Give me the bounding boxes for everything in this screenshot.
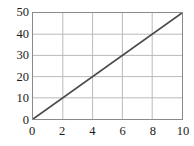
plot-area [32, 12, 183, 120]
y-axis-tick-label: 40 [1, 27, 29, 40]
x-axis-tick-label: 4 [79, 125, 105, 138]
data-line-series [33, 13, 182, 119]
x-axis-tick-label: 2 [49, 125, 75, 138]
y-axis-tick-labels: 0 10 20 30 40 50 [0, 12, 29, 120]
x-axis-tick-label: 10 [170, 125, 194, 138]
y-axis-tick-label: 10 [1, 92, 29, 105]
y-axis-tick-label: 50 [1, 6, 29, 19]
line-chart: 0 10 20 30 40 50 0 2 4 6 8 10 [0, 0, 194, 146]
x-axis-tick-label: 0 [19, 125, 45, 138]
x-axis-tick-labels: 0 2 4 6 8 10 [32, 125, 183, 141]
x-axis-tick-label: 8 [140, 125, 166, 138]
y-axis-tick-label: 20 [1, 71, 29, 84]
x-axis-tick-label: 6 [110, 125, 136, 138]
y-axis-tick-label: 30 [1, 49, 29, 62]
data-line [33, 13, 182, 119]
